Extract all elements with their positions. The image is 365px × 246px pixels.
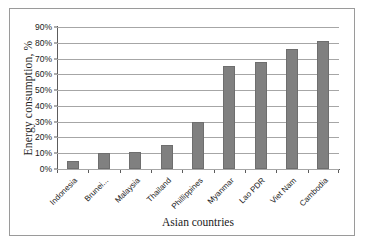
- y-tick-label: 90%: [35, 22, 52, 32]
- y-tick-label: 50%: [35, 85, 52, 95]
- x-tick-mark: [214, 170, 215, 173]
- y-tick-label: 70%: [35, 54, 52, 64]
- x-axis-category-labels: IndonesiaBrunei...MalaysiaThailandPhilli…: [57, 174, 339, 218]
- x-axis-title: Asian countries: [57, 216, 339, 228]
- x-tick-mark: [88, 170, 89, 173]
- bar-slot: [182, 27, 213, 169]
- bar-slot: [57, 27, 88, 169]
- y-tick-label: 60%: [35, 69, 52, 79]
- bar-brunei[interactable]: [98, 153, 110, 169]
- y-axis-title: Energy consumption, %: [22, 23, 34, 173]
- bar-indonesia[interactable]: [67, 161, 79, 169]
- bar-malaysia[interactable]: [129, 152, 141, 169]
- bar-chart-figure: Energy consumption, % 0%10%20%30%40%50%6…: [0, 0, 365, 246]
- y-tick-label: 10%: [35, 148, 52, 158]
- bar-phillippines[interactable]: [192, 122, 204, 169]
- bar-slot: [245, 27, 276, 169]
- x-tick-mark: [182, 170, 183, 173]
- bar-slot: [120, 27, 151, 169]
- bar-slot: [276, 27, 307, 169]
- bar-cambodia[interactable]: [317, 41, 329, 169]
- bar-slot: [151, 27, 182, 169]
- x-tick-mark: [308, 170, 309, 173]
- bars-layer: [57, 27, 339, 169]
- y-tick-label: 80%: [35, 38, 52, 48]
- x-tick-mark: [276, 170, 277, 173]
- y-tick-label: 30%: [35, 117, 52, 127]
- bar-lao-pdr[interactable]: [255, 62, 267, 169]
- bar-slot: [88, 27, 119, 169]
- bar-slot: [308, 27, 339, 169]
- x-tick-mark: [120, 170, 121, 173]
- x-label-slot: Cambodia: [308, 174, 339, 218]
- bar-myanmar[interactable]: [223, 66, 235, 169]
- x-tick-mark: [338, 170, 339, 173]
- x-tick-mark: [57, 170, 58, 173]
- bar-thailand[interactable]: [161, 145, 173, 169]
- y-tick-label: 0%: [40, 164, 52, 174]
- bar-slot: [214, 27, 245, 169]
- plot-area: 0%10%20%30%40%50%60%70%80%90%: [57, 27, 339, 169]
- y-tick-label: 40%: [35, 101, 52, 111]
- x-tick-mark: [151, 170, 152, 173]
- y-tick-label: 20%: [35, 132, 52, 142]
- bar-viet-nam[interactable]: [286, 49, 298, 169]
- x-tick-mark: [245, 170, 246, 173]
